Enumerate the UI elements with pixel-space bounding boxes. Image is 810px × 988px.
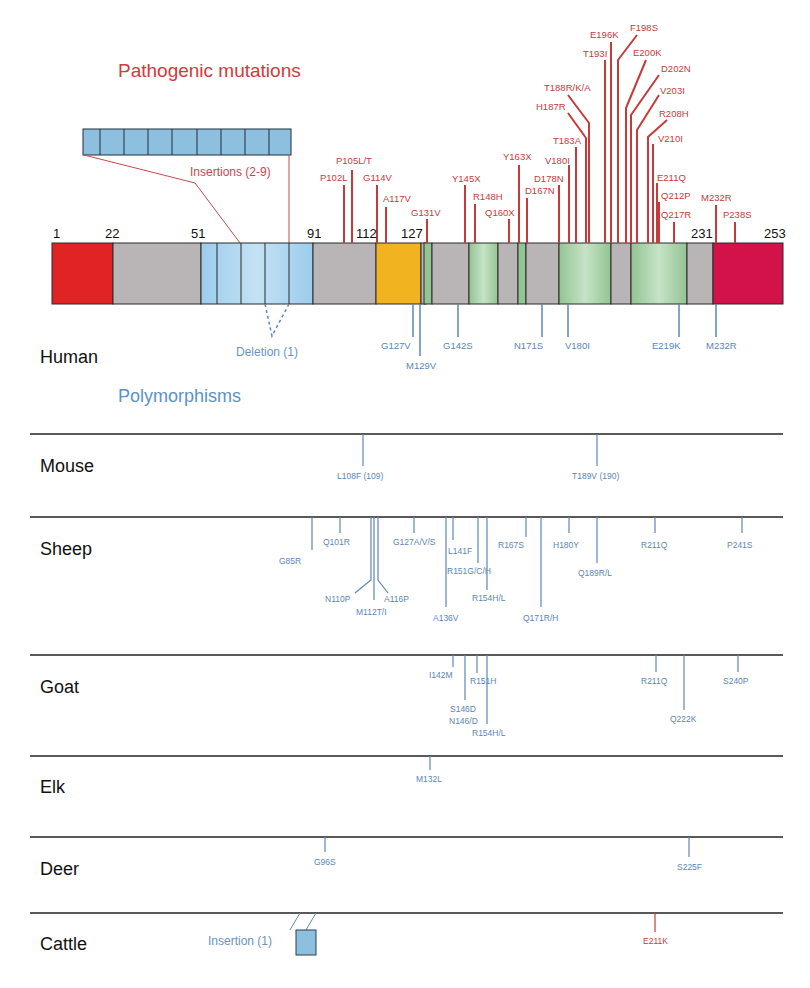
species-cattle: Cattle xyxy=(40,934,87,955)
sheep-poly-label: G85R xyxy=(279,556,301,566)
mut-label: G114V xyxy=(363,172,392,183)
sheep-poly-label: Q171R/H xyxy=(523,613,558,623)
cattle-insertion-label: Insertion (1) xyxy=(208,934,272,948)
goat-poly-label: S146D xyxy=(450,704,476,714)
diagram-graphics xyxy=(0,0,810,988)
mut-label: T188R/K/A xyxy=(544,82,590,93)
human-poly-label: V180I xyxy=(565,340,590,351)
deer-poly-label: S225F xyxy=(677,862,702,872)
sheep-poly-label: A136V xyxy=(433,613,459,623)
mut-label: G131V xyxy=(411,207,441,218)
sheep-poly-label: R167S xyxy=(498,540,524,550)
cattle-mut-label: E211K xyxy=(643,936,668,946)
human-prp-bar xyxy=(52,243,783,304)
insertion-repeats-box xyxy=(83,129,291,155)
species-human: Human xyxy=(40,347,98,368)
sheep-poly-label: R211Q xyxy=(641,540,667,550)
sheep-poly-label: H180Y xyxy=(553,540,579,550)
sheep-poly-label: R154H/L xyxy=(472,593,506,603)
mut-label: A117V xyxy=(383,193,411,204)
sheep-poly-label: G127A/V/S xyxy=(393,537,436,547)
mouse-poly-label: T189V (190) xyxy=(572,471,619,481)
mut-label: Q212P xyxy=(661,190,691,201)
insertions-label: Insertions (2-9) xyxy=(190,165,271,179)
species-sheep: Sheep xyxy=(40,539,92,560)
species-mouse: Mouse xyxy=(40,456,94,477)
mut-label: M232R xyxy=(701,192,732,203)
sheep-poly-label: R151G/C/H xyxy=(447,566,491,576)
mut-label: H187R xyxy=(536,101,566,112)
human-poly-label: G127V xyxy=(381,340,411,351)
sheep-poly-label: N110P xyxy=(325,594,350,604)
goat-poly-label: R154H/L xyxy=(472,728,506,738)
pathogenic-title: Pathogenic mutations xyxy=(118,60,301,82)
mut-label: Q217R xyxy=(661,209,691,220)
sheep-poly-label: A116P xyxy=(384,594,409,604)
sheep-poly-label: L141F xyxy=(448,546,472,556)
mut-label: Q160X xyxy=(485,207,515,218)
sheep-poly-label: M112T/I xyxy=(356,607,387,617)
mut-label: F198S xyxy=(630,22,658,33)
deer-poly-label: G96S xyxy=(314,857,336,867)
species-elk: Elk xyxy=(40,777,65,798)
polymorphisms-title: Polymorphisms xyxy=(118,386,241,407)
tick-127: 127 xyxy=(401,226,423,241)
mut-label: Y145X xyxy=(452,173,481,184)
mut-label: P238S xyxy=(723,209,752,220)
goat-poly-label: Q222K xyxy=(670,714,696,724)
tick-91: 91 xyxy=(307,226,321,241)
goat-poly-label: I142M xyxy=(429,670,453,680)
mut-label: P102L xyxy=(320,172,347,183)
mut-label: D202N xyxy=(661,63,691,74)
sheep-poly-label: P241S xyxy=(727,540,753,550)
mut-label: V210I xyxy=(658,133,683,144)
tick-51: 51 xyxy=(191,226,205,241)
species-goat: Goat xyxy=(40,677,79,698)
deletion-label: Deletion (1) xyxy=(236,345,298,359)
goat-poly-label: S240P xyxy=(723,676,749,686)
sheep-poly-label: Q189R/L xyxy=(578,568,612,578)
goat-poly-label: R151H xyxy=(470,676,496,686)
mut-label: E196K xyxy=(590,29,619,40)
tick-231: 231 xyxy=(691,226,713,241)
mut-label: V203I xyxy=(660,85,685,96)
tick-253: 253 xyxy=(764,226,786,241)
human-poly-label: M232R xyxy=(706,340,737,351)
elk-poly-label: M132L xyxy=(416,774,442,784)
mut-label: T193I xyxy=(583,48,607,59)
mut-label: E200K xyxy=(633,47,662,58)
human-poly-label: E219K xyxy=(652,340,681,351)
mut-label: R148H xyxy=(473,191,503,202)
mut-label: V180I xyxy=(545,155,570,166)
sheep-poly-label: Q101R xyxy=(323,537,350,547)
mut-label: T183A xyxy=(553,135,581,146)
mut-label: P105L/T xyxy=(336,155,372,166)
tick-112: 112 xyxy=(356,226,377,241)
cattle-insertion-box xyxy=(296,930,316,955)
mut-label: E211Q xyxy=(657,172,686,183)
mouse-poly-label: L108F (109) xyxy=(337,471,383,481)
mut-label: D178N xyxy=(534,173,564,184)
goat-poly-label: N146/D xyxy=(449,716,478,726)
mut-label: D167N xyxy=(525,185,555,196)
mut-label: R208H xyxy=(659,108,689,119)
human-poly-label: N171S xyxy=(514,340,543,351)
mut-label: Y163X xyxy=(503,151,532,162)
human-poly-label: G142S xyxy=(443,340,473,351)
goat-poly-label: R211Q xyxy=(641,676,667,686)
prp-mutation-diagram: Pathogenic mutations Polymorphisms Inser… xyxy=(0,0,810,988)
species-deer: Deer xyxy=(40,859,79,880)
human-poly-label: M129V xyxy=(406,360,436,371)
tick-22: 22 xyxy=(105,226,119,241)
tick-1: 1 xyxy=(53,226,60,241)
